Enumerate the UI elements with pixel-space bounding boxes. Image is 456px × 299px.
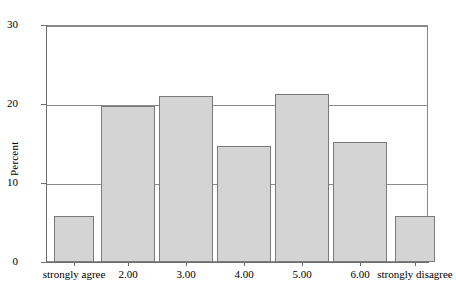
y-tick-mark-20 xyxy=(41,104,46,105)
x-tick-mark-6 xyxy=(415,262,416,266)
bar-6-00[interactable] xyxy=(333,142,387,262)
y-tick-label-0: 0 xyxy=(13,256,19,267)
x-tick-label-2-00: 2.00 xyxy=(98,268,158,281)
x-tick-label-3-00: 3.00 xyxy=(156,268,216,281)
bar-strongly-agree[interactable] xyxy=(54,216,94,262)
y-tick-mark-0 xyxy=(41,262,46,263)
x-tick-mark-2 xyxy=(186,262,187,266)
bar-3-00[interactable] xyxy=(159,96,213,262)
bars-group xyxy=(47,26,427,262)
y-tick-mark-30 xyxy=(41,25,46,26)
bar-4-00[interactable] xyxy=(217,146,271,262)
x-tick-mark-4 xyxy=(302,262,303,266)
x-tick-mark-0 xyxy=(74,262,75,266)
x-tick-mark-5 xyxy=(360,262,361,266)
bar-strongly-disagree[interactable] xyxy=(395,216,435,262)
y-tick-label-20: 20 xyxy=(7,98,18,109)
bar-2-00[interactable] xyxy=(101,106,155,262)
x-axis-line xyxy=(46,262,429,263)
bar-chart: 30 20 10 0 Percent strongly agree 2.00 3… xyxy=(0,0,456,299)
y-tick-label-30: 30 xyxy=(7,19,18,30)
x-tick-mark-1 xyxy=(128,262,129,266)
x-tick-label-strongly-disagree: strongly disagree xyxy=(361,268,456,281)
y-axis-title: Percent xyxy=(8,142,20,176)
bar-5-00[interactable] xyxy=(275,94,329,262)
x-tick-mark-3 xyxy=(244,262,245,266)
x-tick-label-5-00: 5.00 xyxy=(272,268,332,281)
y-tick-label-10: 10 xyxy=(7,177,18,188)
x-tick-label-4-00: 4.00 xyxy=(214,268,274,281)
y-tick-mark-10 xyxy=(41,183,46,184)
